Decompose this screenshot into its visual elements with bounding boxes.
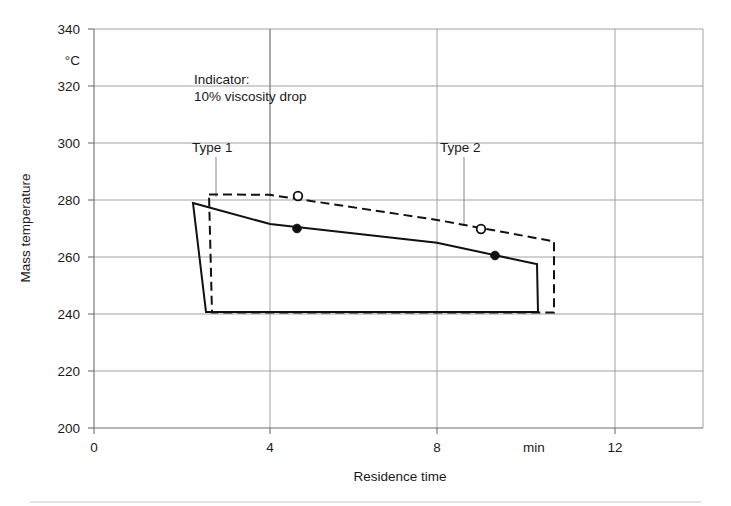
x-tick-label-12: 12 bbox=[607, 440, 622, 455]
x-axis-title: Residence time bbox=[353, 469, 446, 484]
chart-canvas: 340 320 300 280 260 240 220 200 °C 0 4 8… bbox=[0, 0, 731, 506]
y-tick-label-260: 260 bbox=[57, 250, 80, 265]
indicator-note-line2: 10% viscosity drop bbox=[194, 89, 307, 104]
y-axis-unit-label: °C bbox=[65, 53, 80, 68]
y-axis-title: Mass temperature bbox=[18, 174, 33, 283]
indicator-note-line1: Indicator: bbox=[194, 72, 250, 87]
y-tick-label-300: 300 bbox=[57, 136, 80, 151]
series-type-2-marker-1 bbox=[294, 192, 303, 201]
y-tick-label-200: 200 bbox=[57, 421, 80, 436]
y-tick-label-280: 280 bbox=[57, 193, 80, 208]
y-tick-label-220: 220 bbox=[57, 364, 80, 379]
x-tick-label-8: 8 bbox=[433, 440, 441, 455]
y-tick-label-340: 340 bbox=[57, 22, 80, 37]
y-tick-label-320: 320 bbox=[57, 79, 80, 94]
chart-figure: 340 320 300 280 260 240 220 200 °C 0 4 8… bbox=[0, 0, 731, 506]
series-type-1-marker-2 bbox=[491, 251, 500, 260]
series-type-1-marker-1 bbox=[293, 224, 302, 233]
x-tick-label-0: 0 bbox=[90, 440, 98, 455]
series-type-2-marker-2 bbox=[477, 225, 486, 234]
type-2-callout-label: Type 2 bbox=[440, 140, 481, 155]
x-tick-label-4: 4 bbox=[266, 440, 274, 455]
x-axis-unit-label: min bbox=[523, 440, 545, 455]
chart-background bbox=[0, 0, 731, 506]
type-1-callout-label: Type 1 bbox=[192, 140, 233, 155]
y-tick-label-240: 240 bbox=[57, 307, 80, 322]
